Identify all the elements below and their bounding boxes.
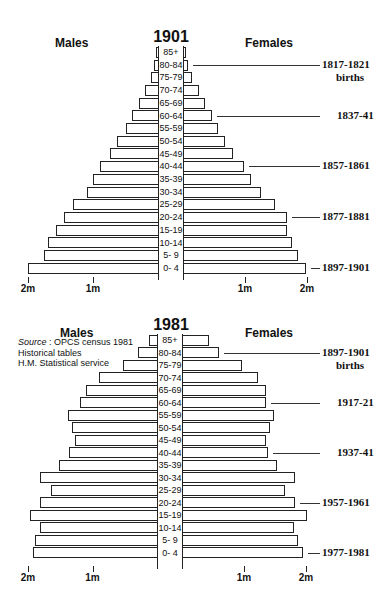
cohort-annotation: 1937-41	[337, 446, 374, 458]
age-group-label: 70-74	[158, 372, 182, 385]
female-bar	[182, 497, 295, 508]
age-group-label: 35-39	[158, 459, 182, 472]
age-group-label: 75-79	[158, 359, 182, 372]
male-bar	[138, 347, 158, 358]
annotation-leader-line	[300, 503, 320, 504]
annotation-leader-line	[224, 353, 320, 354]
female-bar	[182, 422, 270, 433]
female-bar	[182, 547, 303, 558]
axis-tick-label: 1m	[85, 572, 99, 583]
female-bar	[182, 510, 307, 521]
age-group-label: 0- 4	[158, 547, 182, 560]
female-bar	[182, 460, 277, 471]
age-group-label: 80-84	[158, 347, 182, 360]
male-bar	[68, 410, 158, 421]
age-group-label: 85+	[158, 334, 182, 347]
male-bar	[149, 335, 158, 346]
female-bar	[182, 447, 268, 458]
source-label: Source	[18, 337, 47, 347]
source-note: Source : OPCS census 1981 Historical tab…	[18, 337, 133, 369]
age-group-label: 20-24	[158, 497, 182, 510]
age-group-label: 25-29	[158, 484, 182, 497]
male-bar	[33, 547, 158, 558]
male-bar	[123, 360, 158, 371]
cohort-annotation: 1957-1961	[322, 496, 370, 508]
axis-tick-label: 1m	[237, 572, 251, 583]
female-bar	[182, 372, 258, 383]
chart-title: 1981	[150, 316, 192, 334]
male-bar	[59, 460, 158, 471]
age-group-label: 50-54	[158, 422, 182, 435]
male-bar	[40, 522, 158, 533]
annotation-leader-line	[271, 403, 320, 404]
age-group-label: 15-19	[158, 509, 182, 522]
cohort-annotation-subtext: births	[336, 359, 364, 371]
male-bar	[69, 447, 158, 458]
axis-tick-label: 2m	[299, 572, 313, 583]
age-group-label: 40-44	[158, 447, 182, 460]
cohort-annotation: 1917-21	[337, 396, 374, 408]
female-bar	[182, 472, 295, 483]
age-group-label: 10-14	[158, 522, 182, 535]
age-group-label: 55-59	[158, 409, 182, 422]
annotation-leader-line	[308, 553, 320, 554]
cohort-annotation: 1897-1901	[322, 346, 370, 358]
source-line3: H.M. Statistical service	[18, 358, 133, 369]
female-bar	[182, 360, 242, 371]
annotation-leader-line	[273, 453, 320, 454]
male-bar	[80, 397, 158, 408]
male-bar	[35, 535, 158, 546]
females-label: Females	[245, 326, 293, 340]
age-group-label: 30-34	[158, 472, 182, 485]
male-bar	[86, 385, 158, 396]
male-bar	[40, 472, 158, 483]
source-line2: Historical tables	[18, 348, 133, 359]
male-bar	[72, 422, 158, 433]
source-line1: : OPCS census 1981	[47, 337, 134, 347]
female-bar	[182, 435, 266, 446]
male-bar	[99, 372, 158, 383]
age-group-label: 65-69	[158, 384, 182, 397]
female-bar	[182, 410, 274, 421]
cohort-annotation: 1977-1981	[322, 546, 370, 558]
age-group-label: 5- 9	[158, 534, 182, 547]
female-bar	[182, 397, 266, 408]
male-bar	[30, 510, 158, 521]
female-bar	[182, 385, 266, 396]
male-bar	[40, 497, 158, 508]
axis-tick-label: 2m	[21, 572, 35, 583]
pyramid-1981: 1981 Males Females Source : OPCS census …	[0, 0, 390, 608]
age-group-label: 45-49	[158, 434, 182, 447]
female-bar	[182, 535, 298, 546]
female-bar	[182, 522, 294, 533]
female-bar	[182, 347, 219, 358]
male-bar	[51, 485, 158, 496]
male-bar	[75, 435, 158, 446]
age-group-label: 60-64	[158, 397, 182, 410]
age-axis: 85+80-8475-7970-7465-6960-6455-5950-5445…	[157, 334, 183, 569]
female-bar	[182, 335, 209, 346]
female-bar	[182, 485, 285, 496]
